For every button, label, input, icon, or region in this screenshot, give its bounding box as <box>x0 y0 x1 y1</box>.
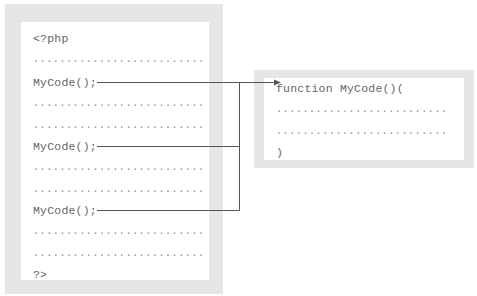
call-connector-lines <box>0 0 477 296</box>
arrowhead-icon <box>274 80 281 86</box>
